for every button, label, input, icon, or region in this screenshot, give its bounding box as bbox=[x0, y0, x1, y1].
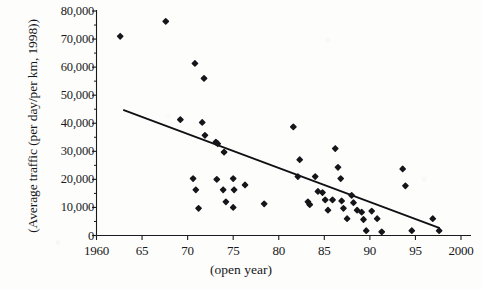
data-point bbox=[291, 124, 296, 129]
data-point bbox=[118, 34, 123, 39]
data-point bbox=[323, 197, 328, 202]
data-point bbox=[341, 206, 346, 211]
data-point bbox=[313, 174, 318, 179]
data-point bbox=[359, 210, 364, 215]
data-point bbox=[200, 120, 205, 125]
data-point bbox=[192, 61, 197, 66]
data-point bbox=[361, 217, 366, 222]
data-point bbox=[202, 133, 207, 138]
data-point bbox=[344, 216, 349, 221]
data-point bbox=[403, 183, 408, 188]
data-point bbox=[379, 229, 384, 234]
data-point bbox=[437, 228, 442, 233]
data-point bbox=[262, 201, 267, 206]
data-point bbox=[193, 187, 198, 192]
data-point bbox=[223, 199, 228, 204]
data-point bbox=[214, 177, 219, 182]
data-point bbox=[338, 176, 343, 181]
data-point bbox=[409, 228, 414, 233]
data-point bbox=[430, 216, 435, 221]
data-point bbox=[190, 176, 195, 181]
data-point bbox=[163, 19, 168, 24]
scatter-plot-figure: (Average traffic (per day/per km, 1998))… bbox=[0, 0, 482, 289]
data-point bbox=[178, 117, 183, 122]
axes-group bbox=[92, 10, 471, 240]
data-point bbox=[196, 206, 201, 211]
data-point bbox=[333, 146, 338, 151]
data-point bbox=[339, 198, 344, 203]
trend-line bbox=[124, 110, 439, 228]
data-point bbox=[400, 166, 405, 171]
data-point bbox=[335, 165, 340, 170]
data-point bbox=[231, 187, 236, 192]
data-point bbox=[369, 208, 374, 213]
data-point bbox=[349, 193, 354, 198]
data-point bbox=[221, 150, 226, 155]
data-point bbox=[375, 216, 380, 221]
data-point bbox=[201, 76, 206, 81]
data-point bbox=[297, 157, 302, 162]
plot-canvas bbox=[0, 0, 482, 289]
data-point bbox=[215, 141, 220, 146]
data-point bbox=[307, 202, 312, 207]
data-point bbox=[231, 205, 236, 210]
data-point bbox=[320, 190, 325, 195]
data-point bbox=[231, 176, 236, 181]
data-point bbox=[364, 228, 369, 233]
data-point bbox=[242, 182, 247, 187]
data-point bbox=[351, 200, 356, 205]
data-point bbox=[330, 197, 335, 202]
data-point bbox=[295, 174, 300, 179]
data-point bbox=[221, 187, 226, 192]
data-point bbox=[325, 208, 330, 213]
